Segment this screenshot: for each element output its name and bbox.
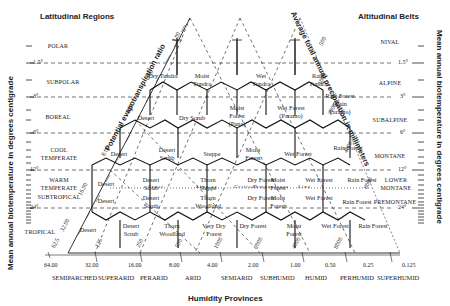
zone-thorn-woodland: Thorn Woodland [152,222,192,238]
zone-desert: Desert [86,180,126,188]
region-boreal: BOREAL [38,113,78,121]
zone-rain-forest: Rain Forest [333,144,363,152]
zone-desert-scrub: Desert Scrub [116,222,146,238]
humidity-provinces-title: Humidity Provinces [188,294,263,303]
zone-wet-forest: Wet Forest [320,222,350,230]
humidity-ratio-tick: 1.00 [290,262,301,268]
temp-tick-right: 24° [398,204,406,210]
belt-lower-montane: LOWER MONTANE [376,176,416,192]
region-cool-temperate: COOL TEMPERATE [36,146,82,162]
humidity-ratio-tick: 0.50 [325,262,336,268]
humidity-province: SEMIPARCHED [52,274,97,281]
region-tropical: TROPICAL [20,228,60,236]
temp-tick-left: 12° [30,166,38,172]
belt-montane: MONTANE [366,152,414,160]
temp-tick-left: 24° [30,204,38,210]
zone-moist-forest: Moist Forest [279,222,309,238]
zone-thorn-woodland: Thorn Woodland [188,194,228,210]
zone-moist-forest: Moist Forest [238,146,268,162]
humidity-ratio-tick: 32.00 [85,262,99,268]
humidity-province: SUPERHUMID [377,274,419,281]
zone-desert: Desert [126,114,166,122]
humidity-province: SUBHUMID [260,274,295,281]
humidity-ratio-tick: 16.00 [128,262,142,268]
zone-rain-forest-rain-paramo: Rain Forest (Rain Paramo) [322,92,358,116]
humidity-ratio-tick: 0.25 [363,262,374,268]
right-axis-title: Mean annual biotemperature in degrees ce… [435,30,444,224]
humidity-ratio-tick: 64.00 [44,262,58,268]
humidity-ratio-tick: 8.00 [169,262,180,268]
frost-line-label: Frost [148,184,164,189]
zone-desert-scrub: Desert Scrub [152,146,182,162]
belt-subalpine: SUBALPINE [366,116,414,124]
latitudinal-regions-title: Latitudinal Regions [40,12,114,21]
zone-very-dry-forest: Very Dry Forest [194,222,234,238]
zone-rain-forest: Rain Forest [332,198,382,206]
zone-rain-tundra: Rain Tundra [304,72,332,88]
zone-desert: Desert [68,226,108,234]
temp-tick-left: 6° [33,129,38,135]
region-polar: POLAR [38,42,78,50]
temp-tick-left: 1.5° [33,59,43,65]
zone-dry-forest: Dry Forest [238,222,268,230]
altitudinal-belts-title: Altitudinal Belts [358,12,419,21]
humidity-province: SEMIARID [221,274,252,281]
frost-line-label: Temperature [253,184,289,189]
zone-steppe: Steppe [192,150,232,158]
zone-dry-tundra: Dry Tundra [143,72,183,80]
zone-wet-tundra: Wet Tundra [247,72,275,88]
zone-wet-forest-paramo: Wet Forest (Paramo) [273,104,309,120]
humidity-province: PERARID [140,274,168,281]
zone-rain-forest: Rain Forest [358,222,388,230]
zone-dry-scrub: Dry Scrub [168,114,216,122]
zone-desert-scrub: Desert Scrub [136,194,166,210]
zone-wet-forest: Wet Forest [268,150,328,158]
temp-tick-left: 3° [33,93,38,99]
zone-wet-forest: Wet Forest [304,194,334,202]
region-warm-temperate: WARM TEMPERATE [34,176,84,192]
belt-nival: NIVAL [370,38,410,46]
frost-line-label: Line [298,184,311,189]
humidity-ratio-tick: 2.00 [248,262,259,268]
zone-wet-forest: Wet Forest [304,176,334,184]
temp-tick-right: 6° [400,129,405,135]
temp-tick-right: 3° [400,93,405,99]
zone-moist-tundra: Moist Tundra [188,72,216,88]
region-subtropical: SUBTROPICAL [34,193,84,201]
left-axis-title: Mean annual biotemperature in degrees ce… [6,76,15,270]
temp-tick-right: 12° [398,166,406,172]
zone-moist-forest: Moist Forest [263,194,293,210]
humidity-province: PERHUMID [340,274,374,281]
humidity-province: SUPERARID [98,274,134,281]
humidity-ratio-tick: 0.125 [402,262,416,268]
zone-moist-forest-puna: Moist Forest (Puna) [222,104,252,128]
humidity-ratio-tick: 4.00 [207,262,218,268]
zone-rain-forest: Rain Forest [347,176,377,184]
zone-desert: Desert [99,150,139,158]
zone-desert: Desert [86,197,126,205]
region-subpolar: SUBPOLAR [38,78,88,86]
belt-alpine: ALPINE [370,79,410,87]
humidity-province: ARID [185,274,201,281]
frost-line-label: Line or [196,184,218,189]
humidity-province: HUMID [305,274,327,281]
temp-tick-right: 1.5° [398,59,408,65]
